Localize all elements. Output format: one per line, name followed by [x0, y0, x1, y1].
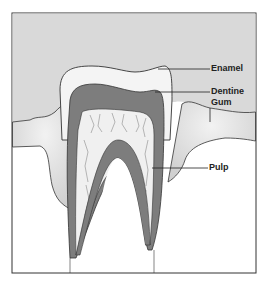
label-pulp: Pulp [209, 162, 229, 172]
label-gum: Gum [211, 97, 232, 107]
label-enamel: Enamel [211, 63, 243, 73]
label-dentine: Dentine [211, 86, 244, 96]
tooth-diagram [0, 0, 264, 281]
